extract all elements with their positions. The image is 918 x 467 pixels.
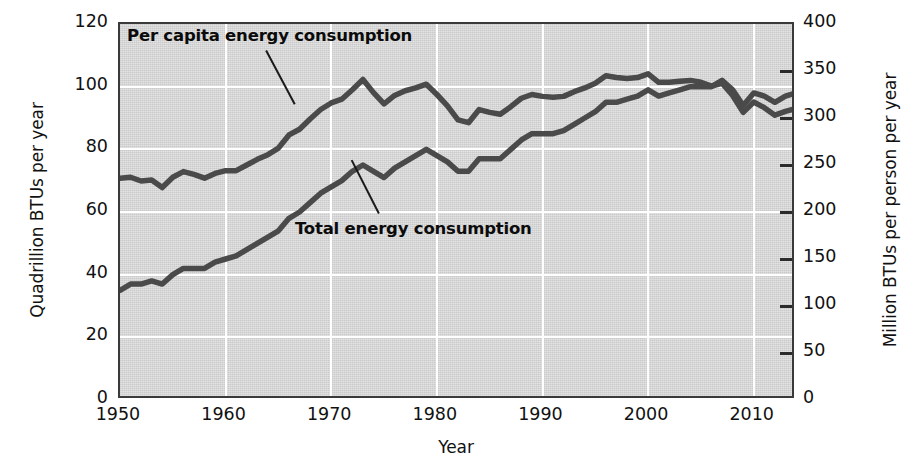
series-layer (120, 24, 794, 398)
energy-consumption-chart: Quadrillion BTUs per year Million BTUs p… (0, 0, 918, 467)
y-axis-right-tickmark (780, 305, 792, 308)
y-axis-right-tickmark (780, 117, 792, 120)
x-axis-tick-label: 1960 (184, 406, 264, 424)
x-axis-tick-label: 1970 (289, 406, 369, 424)
y-axis-right-tickmark (780, 352, 792, 355)
annotation-total-energy-consumption: Total energy consumption (295, 219, 532, 238)
y-axis-right-tickmark (780, 70, 792, 73)
y-axis-right-tickmark (780, 164, 792, 167)
x-axis-tick-label: 2000 (606, 406, 686, 424)
y-axis-right-tickmark (780, 211, 792, 214)
plot-area (118, 22, 794, 398)
series-line-total-energy-consumption (120, 80, 794, 290)
annotation-per-capita-energy-consumption: Per capita energy consumption (127, 26, 412, 45)
x-axis-tick-label: 1990 (501, 406, 581, 424)
x-axis-tick-label: 1950 (78, 406, 158, 424)
x-axis-tick-label: 2010 (712, 406, 792, 424)
y-axis-right-tickmark (780, 258, 792, 261)
x-axis-tick-label: 1980 (395, 406, 475, 424)
